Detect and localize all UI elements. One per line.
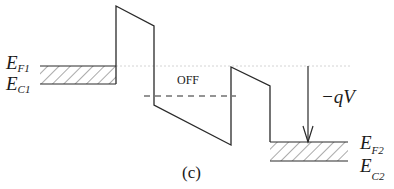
left-electrode-fill [40,66,116,84]
label-ef2: EF2 [360,132,384,154]
label-ec1-sub: C1 [18,83,31,95]
label-ec1: EC1 [6,73,30,95]
label-ef2-main: E [360,132,372,153]
state-label-off: OFF [177,73,199,88]
figure-caption: (c) [182,163,201,183]
band-diagram: EF1 EC1 OFF −qV EF2 EC2 (c) [0,0,394,189]
label-ec2-main: E [360,155,372,176]
voltage-label: −qV [321,86,355,108]
label-ec1-main: E [6,73,18,94]
label-ec2-sub: C2 [372,170,385,182]
right-electrode-fill [270,142,348,161]
label-ec2: EC2 [360,155,384,177]
label-ef1-main: E [6,52,18,73]
label-ef1: EF1 [6,52,30,74]
